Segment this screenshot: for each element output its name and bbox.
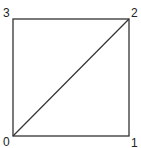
diagonal-edge-0-2: [13, 19, 129, 136]
vertex-label-1: 1: [131, 136, 138, 148]
diagram-canvas: 3 2 0 1: [0, 0, 141, 148]
vertex-label-3: 3: [3, 6, 10, 20]
vertex-label-2: 2: [131, 6, 138, 20]
vertex-label-0: 0: [3, 135, 10, 148]
